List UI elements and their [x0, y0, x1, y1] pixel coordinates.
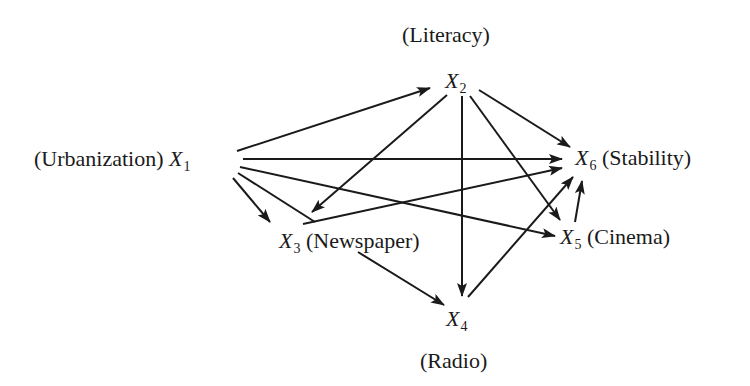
- node-x4-sub: 4: [460, 319, 467, 334]
- node-x4-label: (Radio): [420, 350, 487, 372]
- node-x5: X5 (Cinema): [560, 226, 670, 248]
- edge-x3-x6: [303, 168, 562, 224]
- node-x1-sub: 1: [183, 159, 190, 174]
- edges-layer: [0, 0, 750, 386]
- node-x1: (Urbanization) X1: [34, 148, 190, 170]
- node-x1-label: (Urbanization): [34, 146, 164, 171]
- node-x5-sub: 5: [574, 237, 581, 252]
- node-x6: X6 (Stability): [575, 147, 691, 169]
- node-x5-label: (Cinema): [587, 224, 670, 249]
- node-x6-var: X: [575, 145, 588, 170]
- edge-x2-x3: [312, 95, 447, 212]
- edge-x1-x5: [240, 167, 555, 236]
- edge-x3-x4: [358, 252, 444, 305]
- node-x6-label: (Stability): [602, 145, 691, 170]
- node-x2-sub: 2: [459, 81, 466, 96]
- node-x2-var: X: [445, 68, 458, 93]
- edge-x4-x6: [468, 177, 573, 297]
- node-x4: X4: [446, 308, 467, 330]
- node-x3-sub: 3: [293, 241, 300, 256]
- node-x1-var: X: [169, 146, 182, 171]
- node-x3: X3 (Newspaper): [279, 230, 420, 252]
- edge-x1-x3: [233, 178, 270, 222]
- node-x6-sub: 6: [589, 158, 596, 173]
- node-x2: X2: [445, 70, 466, 92]
- edge-x1-x2: [237, 88, 430, 151]
- node-x3-label: (Newspaper): [306, 228, 420, 253]
- path-diagram: (Urbanization) X1 (Literacy) X2 X3 (News…: [0, 0, 750, 386]
- node-x4-var: X: [446, 306, 459, 331]
- node-x3-var: X: [279, 228, 292, 253]
- edge-x2-x6: [479, 90, 570, 147]
- edge-x5-x6: [575, 181, 582, 222]
- node-x2-label: (Literacy): [402, 24, 490, 46]
- node-x5-var: X: [560, 224, 573, 249]
